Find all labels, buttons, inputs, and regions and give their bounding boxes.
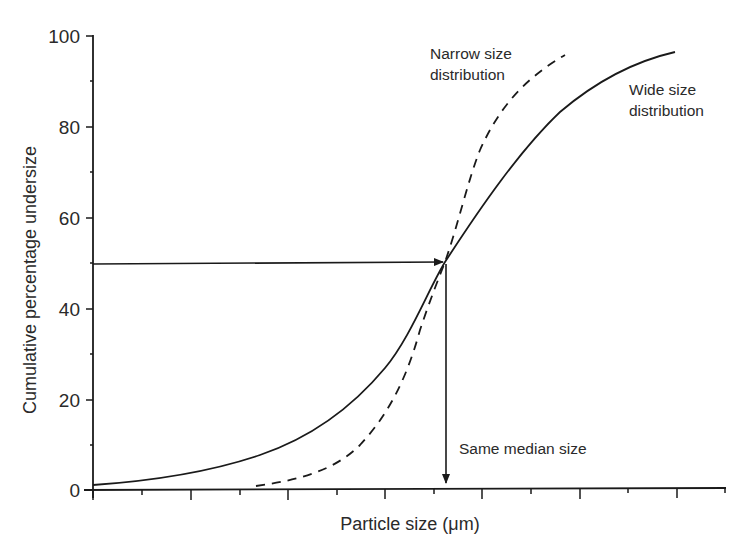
narrow-distribution-curve xyxy=(256,55,565,486)
y-tick-label-100: 100 xyxy=(48,26,80,47)
y-axis: 100 80 60 40 20 0 Cumulative percentage … xyxy=(20,26,93,501)
median-horizontal-arrow xyxy=(93,262,443,264)
x-axis-title: Particle size (μm) xyxy=(340,514,479,534)
y-axis-title: Cumulative percentage undersize xyxy=(20,146,40,414)
y-tick-label-80: 80 xyxy=(59,117,80,138)
x-axis: Particle size (μm) xyxy=(84,488,726,534)
narrow-distribution-label-line1: Narrow size xyxy=(430,45,512,62)
y-tick-label-20: 20 xyxy=(59,390,80,411)
cumulative-size-distribution-chart: 100 80 60 40 20 0 Cumulative percentage … xyxy=(0,0,735,556)
wide-distribution-curve xyxy=(93,52,675,485)
y-tick-label-60: 60 xyxy=(59,208,80,229)
wide-distribution-label-line2: distribution xyxy=(629,102,704,119)
median-size-label: Same median size xyxy=(459,440,587,457)
y-tick-label-40: 40 xyxy=(59,299,80,320)
wide-distribution-label-line1: Wide size xyxy=(629,81,696,98)
narrow-distribution-label-line2: distribution xyxy=(430,66,505,83)
y-tick-label-0: 0 xyxy=(69,480,80,501)
